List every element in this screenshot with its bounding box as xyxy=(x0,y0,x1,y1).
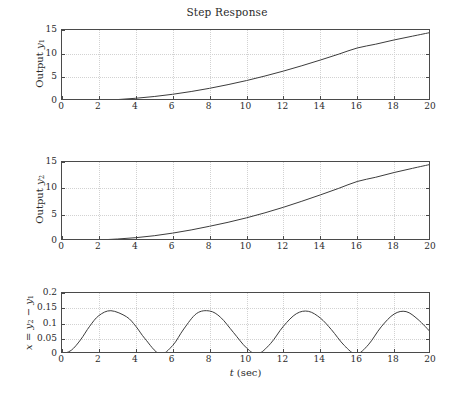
p2-xtick-0: 0 xyxy=(58,241,64,251)
figure-title: Step Response xyxy=(0,6,454,18)
p1-xtick-4: 4 xyxy=(132,101,138,111)
y2-title-prefix: Output xyxy=(34,185,45,224)
p2-xtick-8: 8 xyxy=(206,241,212,251)
p3-xtick-10: 10 xyxy=(240,354,251,364)
panel1-x-tick-labels: 0 2 4 6 8 10 12 14 16 18 20 xyxy=(61,100,430,114)
p2-xtick-12: 12 xyxy=(277,241,288,251)
p3-xtick-4: 4 xyxy=(132,354,138,364)
p2-xtick-18: 18 xyxy=(387,241,398,251)
y-axis-title-y2: Output y2 xyxy=(34,154,47,244)
panel-output-y1: 0 5 10 15 0 2 4 6 8 10 12 14 16 18 20 xyxy=(61,29,430,100)
p2-xtick-14: 14 xyxy=(314,241,325,251)
p3-xtick-2: 2 xyxy=(95,354,101,364)
diff-title-term2: y xyxy=(23,299,34,305)
p3-xtick-16: 16 xyxy=(350,354,361,364)
y1-tick-10: 10 xyxy=(46,48,57,58)
diff-title-term1-sub: 2 xyxy=(27,320,35,324)
y-axis-title-difference: x = y2 − y1 xyxy=(23,277,36,367)
x-tick-015: 0.15 xyxy=(37,302,57,312)
p3-xtick-0: 0 xyxy=(58,354,64,364)
p1-xtick-12: 12 xyxy=(277,101,288,111)
p1-xtick-14: 14 xyxy=(314,101,325,111)
panel-output-y2: 0 5 10 15 0 2 4 6 8 10 12 14 16 18 20 xyxy=(61,161,430,240)
p1-xtick-0: 0 xyxy=(58,101,64,111)
y1-tick-0: 0 xyxy=(51,95,57,105)
p1-xtick-8: 8 xyxy=(206,101,212,111)
p1-xtick-20: 20 xyxy=(424,101,435,111)
y2-title-subscript: 2 xyxy=(38,175,46,179)
y2-tick-5: 5 xyxy=(51,209,57,219)
y1-tick-5: 5 xyxy=(51,71,57,81)
p3-xtick-20: 20 xyxy=(424,354,435,364)
y2-title-symbol: y xyxy=(34,179,45,185)
x-tick-005: 0.05 xyxy=(37,333,57,343)
y2-tick-10: 10 xyxy=(46,182,57,192)
x-tick-01: 0.1 xyxy=(43,318,57,328)
y2-tick-0: 0 xyxy=(51,235,57,245)
p3-xtick-12: 12 xyxy=(277,354,288,364)
p2-xtick-4: 4 xyxy=(132,241,138,251)
x-tick-02: 0.2 xyxy=(43,287,57,297)
panel3-x-tick-labels: 0 2 4 6 8 10 12 14 16 18 20 xyxy=(61,353,430,367)
p3-xtick-8: 8 xyxy=(206,354,212,364)
curve-y1 xyxy=(62,30,430,100)
curve-y2 xyxy=(62,162,430,240)
y-axis-title-y1: Output y1 xyxy=(34,18,47,108)
x-tick-0: 0 xyxy=(51,348,57,358)
curve-difference xyxy=(62,293,430,353)
panel-difference-x: 0 0.05 0.1 0.15 0.2 0 2 4 6 8 10 12 14 1… xyxy=(61,292,430,353)
diff-title-minus: − xyxy=(23,305,34,320)
diff-title-equals: = xyxy=(23,330,34,345)
y1-title-prefix: Output xyxy=(34,49,45,88)
p2-xtick-20: 20 xyxy=(424,241,435,251)
p2-xtick-10: 10 xyxy=(240,241,251,251)
plot-area-y2 xyxy=(61,161,430,240)
y1-tick-15: 15 xyxy=(46,24,57,34)
step-response-figure: Step Response xyxy=(0,0,454,395)
p1-xtick-16: 16 xyxy=(350,101,361,111)
p2-xtick-16: 16 xyxy=(350,241,361,251)
x-title-unit: (sec) xyxy=(234,367,262,378)
panel2-x-tick-labels: 0 2 4 6 8 10 12 14 16 18 20 xyxy=(61,240,430,254)
p2-xtick-6: 6 xyxy=(169,241,175,251)
p1-xtick-10: 10 xyxy=(240,101,251,111)
y1-title-symbol: y xyxy=(34,43,45,49)
plot-area-y1 xyxy=(61,29,430,100)
diff-title-term1: y xyxy=(23,324,34,330)
x-axis-title: t (sec) xyxy=(61,367,430,378)
x-tick-labels-vertical: 0 0.05 0.1 0.15 0.2 xyxy=(31,292,61,353)
p2-xtick-2: 2 xyxy=(95,241,101,251)
y2-tick-15: 15 xyxy=(46,156,57,166)
diff-title-symbol: x xyxy=(23,344,34,350)
p3-xtick-14: 14 xyxy=(314,354,325,364)
p1-xtick-2: 2 xyxy=(95,101,101,111)
diff-title-term2-sub: 1 xyxy=(27,295,35,299)
y1-title-subscript: 1 xyxy=(38,39,46,43)
p1-xtick-18: 18 xyxy=(387,101,398,111)
p3-xtick-18: 18 xyxy=(387,354,398,364)
p1-xtick-6: 6 xyxy=(169,101,175,111)
plot-area-x xyxy=(61,292,430,353)
p3-xtick-6: 6 xyxy=(169,354,175,364)
